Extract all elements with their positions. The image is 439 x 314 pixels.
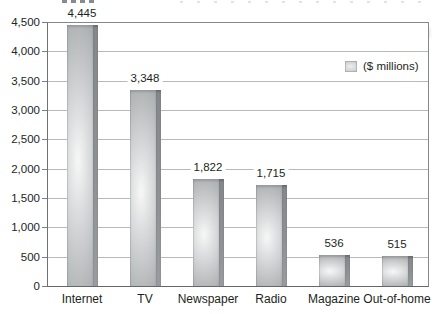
gridline	[48, 51, 428, 52]
y-tick-label: 1,500	[0, 192, 40, 204]
bar-face	[319, 255, 345, 286]
bar-value-label: 4,445	[65, 7, 100, 20]
y-axis-tick	[42, 198, 47, 199]
x-category-label: TV	[137, 292, 152, 306]
bar-side-shadow	[408, 256, 413, 286]
y-axis-tick	[42, 139, 47, 140]
bar-chart: 05001,0001,5002,0002,5003,0003,5004,0004…	[0, 0, 439, 314]
x-category-label: Out-of-home	[363, 292, 430, 306]
y-tick-label: 2,500	[0, 133, 40, 145]
bar-face	[382, 256, 408, 286]
gridline	[48, 139, 428, 140]
bar-value-label: 536	[321, 237, 346, 250]
x-category-label: Internet	[62, 292, 103, 306]
y-axis-tick	[42, 286, 47, 287]
y-axis-tick	[42, 227, 47, 228]
gridline	[48, 257, 428, 258]
y-tick-label: 1,000	[0, 221, 40, 233]
legend-swatch-icon	[345, 61, 357, 72]
x-category-label: Newspaper	[178, 292, 239, 306]
bar-value-label: 515	[384, 238, 409, 251]
y-tick-label: 4,500	[0, 16, 40, 28]
bar	[382, 256, 413, 286]
x-category-label: Radio	[255, 292, 286, 306]
bar-value-label: 1,715	[254, 167, 289, 180]
bar-side-shadow	[93, 25, 98, 286]
bar-side-shadow	[345, 255, 350, 286]
y-tick-label: 4,000	[0, 45, 40, 57]
page-crop-specks-artifact	[180, 1, 432, 3]
y-tick-label: 3,000	[0, 104, 40, 116]
bar	[130, 90, 161, 286]
bar-value-label: 3,348	[128, 72, 163, 85]
legend-label: ($ millions)	[363, 60, 419, 73]
y-axis-tick	[42, 51, 47, 52]
bar-face	[256, 185, 282, 286]
y-axis-tick	[42, 169, 47, 170]
y-tick-label: 500	[0, 251, 40, 263]
bar	[67, 25, 98, 286]
y-tick-label: 0	[0, 280, 40, 292]
bar-side-shadow	[282, 185, 287, 286]
bar-value-label: 1,822	[191, 161, 226, 174]
gridline	[48, 110, 428, 111]
bar-face	[130, 90, 156, 286]
bar	[256, 185, 287, 286]
gridline	[48, 169, 428, 170]
gridline	[48, 81, 428, 82]
legend: ($ millions)	[345, 60, 419, 73]
x-category-label: Magazine	[308, 292, 360, 306]
y-axis-tick	[42, 22, 47, 23]
page-crop-text-artifact	[62, 0, 95, 3]
y-tick-label: 2,000	[0, 163, 40, 175]
bar	[319, 255, 350, 286]
bar	[193, 179, 224, 286]
y-axis-tick	[42, 110, 47, 111]
bar-face	[193, 179, 219, 286]
gridline	[48, 198, 428, 199]
y-tick-label: 3,500	[0, 75, 40, 87]
bar-side-shadow	[219, 179, 224, 286]
y-axis-tick	[42, 257, 47, 258]
gridline	[48, 227, 428, 228]
y-axis-tick	[42, 81, 47, 82]
bar-side-shadow	[156, 90, 161, 286]
bar-face	[67, 25, 93, 286]
